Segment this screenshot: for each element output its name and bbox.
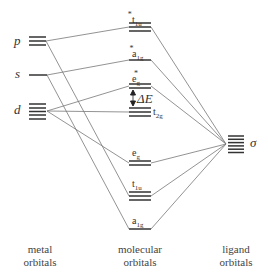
label-mo-t2g: t2g: [153, 107, 163, 121]
label-mo-a1g: a1g: [132, 216, 143, 230]
label-mo-t1u-star: t1u*: [132, 12, 142, 29]
mo-diagram: [0, 0, 268, 273]
level-mo-t1u: [129, 192, 151, 200]
line-p-t1u-star: [46, 27, 129, 41]
level-mo-t2g: [129, 108, 151, 116]
level-metal-d: [29, 104, 46, 119]
line-sigma-a1g: [151, 144, 226, 229]
label-ligand-sigma: σ: [250, 135, 256, 151]
column-title-molecular: molecular orbitals: [100, 243, 180, 269]
column-title-ligand: ligand orbitals: [196, 243, 268, 269]
line-d-t2g: [47, 111, 129, 112]
line-sigma-a1g-star: [151, 60, 226, 144]
delta-e-arrow: [131, 90, 136, 106]
label-mo-eg-star: eg*: [132, 71, 140, 88]
label-metal-d: d: [14, 102, 21, 118]
label-metal-p: p: [14, 33, 21, 49]
column-title-metal: metal orbitals: [0, 243, 80, 269]
label-metal-s: s: [15, 66, 20, 82]
line-s-a1g-star: [47, 60, 129, 75]
line-sigma-t1u: [151, 144, 226, 196]
line-sigma-eg: [151, 144, 226, 163]
label-delta-e: ΔE: [137, 91, 153, 107]
label-mo-a1g-star: a1g*: [132, 46, 143, 63]
label-mo-eg: eg: [132, 148, 140, 162]
label-mo-t1u: t1u: [132, 179, 142, 193]
level-metal-p: [29, 37, 46, 45]
line-sigma-t1u-star: [151, 27, 226, 144]
level-ligand-sigma: [228, 136, 244, 153]
